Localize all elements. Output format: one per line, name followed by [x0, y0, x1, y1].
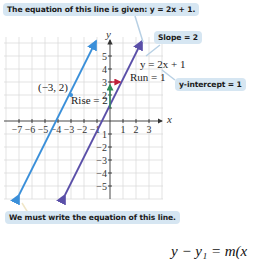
svg-text:1: 1 [102, 129, 107, 140]
blue-line [19, 41, 96, 195]
x-tick-labels: −7 −6 −5 −4 −3 −2 −1 1 2 3 [12, 124, 152, 135]
callout-unknown-line: We must write the equation of this line. [5, 211, 180, 224]
svg-text:2: 2 [134, 124, 139, 135]
rise-label: Rise = 2 [71, 94, 108, 106]
coordinate-graph: −7 −6 −5 −4 −3 −2 −1 1 2 3 5 4 3 2 1 −2 … [0, 0, 256, 265]
svg-text:3: 3 [147, 124, 152, 135]
svg-text:−2: −2 [96, 142, 107, 153]
svg-text:5: 5 [102, 51, 107, 62]
svg-text:3: 3 [102, 77, 107, 88]
line-equation-label: y = 2x + 1 [140, 58, 185, 70]
svg-text:−3: −3 [64, 124, 75, 135]
svg-text:−7: −7 [12, 124, 23, 135]
svg-text:4: 4 [102, 64, 107, 75]
svg-text:−6: −6 [25, 124, 36, 135]
y-axis-label: y [106, 28, 111, 40]
svg-text:−5: −5 [96, 181, 107, 192]
point-label: (−3, 2) [38, 81, 68, 93]
svg-text:−5: −5 [38, 124, 49, 135]
point-slope-formula: y − y₁ = m(x [171, 243, 247, 260]
x-axis-label: x [167, 113, 172, 125]
svg-text:1: 1 [121, 124, 126, 135]
svg-text:−4: −4 [96, 168, 107, 179]
svg-text:−3: −3 [96, 155, 107, 166]
svg-text:−2: −2 [77, 124, 88, 135]
callout-y-intercept: y-intercept = 1 [175, 78, 246, 91]
axes [4, 40, 162, 199]
callout-slope: Slope = 2 [154, 31, 202, 44]
callout-pointer-slope [146, 45, 160, 56]
run-label: Run = 1 [130, 71, 166, 83]
